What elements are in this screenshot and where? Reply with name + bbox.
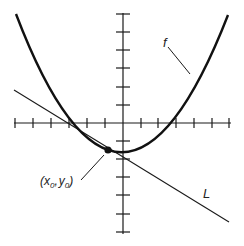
point-label: (x0,y0): [40, 174, 73, 190]
curve-f: [16, 14, 228, 152]
line-label-L: L: [203, 186, 210, 201]
point-label-leader: [81, 155, 104, 180]
svg-text:(x0,y0): (x0,y0): [40, 174, 73, 190]
diagram-canvas: f L (x0,y0): [0, 0, 244, 246]
tangent-point: [104, 146, 111, 153]
curve-label-f: f: [163, 35, 168, 50]
curve-label-leader: [168, 47, 190, 74]
tangent-line-L: [14, 90, 229, 222]
